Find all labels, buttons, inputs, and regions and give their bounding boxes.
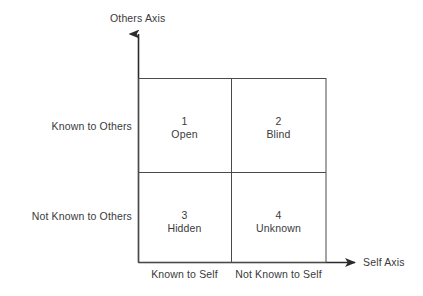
quadrant-hidden-text: 3 Hidden: [167, 209, 201, 235]
quadrant-unknown-label: Unknown: [256, 222, 301, 235]
quadrant-open-number: 1: [171, 115, 197, 128]
quadrant-unknown: 4 Unknown: [231, 172, 326, 262]
column-label-not-known-to-self: Not Known to Self: [231, 268, 326, 281]
row-label-not-known-to-others: Not Known to Others: [2, 210, 132, 223]
row-label-known-to-others: Known to Others: [2, 120, 132, 133]
quadrant-blind: 2 Blind: [231, 78, 326, 172]
quadrant-open-label: Open: [171, 128, 197, 141]
quadrant-hidden-label: Hidden: [167, 222, 201, 235]
self-axis-title: Self Axis: [363, 256, 405, 269]
quadrant-unknown-number: 4: [256, 209, 301, 222]
quadrant-hidden: 3 Hidden: [138, 172, 231, 262]
quadrant-blind-label: Blind: [266, 128, 290, 141]
others-axis-title: Others Axis: [110, 12, 165, 25]
column-label-known-to-self: Known to Self: [138, 268, 231, 281]
quadrant-blind-text: 2 Blind: [266, 115, 290, 141]
quadrant-open-text: 1 Open: [171, 115, 197, 141]
quadrant-unknown-text: 4 Unknown: [256, 209, 301, 235]
quadrant-hidden-number: 3: [167, 209, 201, 222]
quadrant-open: 1 Open: [138, 78, 231, 172]
quadrant-blind-number: 2: [266, 115, 290, 128]
